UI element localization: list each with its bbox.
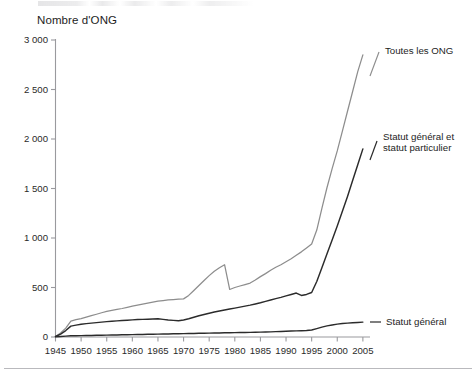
y-tick-label: 500 [2, 282, 48, 293]
legend-label-line: Statut général et [383, 131, 454, 142]
x-tick-label: 1965 [147, 345, 168, 356]
y-tick-label: 3 000 [2, 34, 48, 45]
footer-divider [4, 368, 472, 369]
y-tick-label: 1 500 [2, 183, 48, 194]
x-tick-label: 1975 [199, 345, 220, 356]
legend-label-line: Statut général [386, 316, 446, 327]
x-tick-label: 2000 [327, 345, 348, 356]
legend-label-line: statut particulier [383, 142, 454, 153]
x-tick-label: 1945 [45, 345, 66, 356]
x-tick-label: 1960 [122, 345, 143, 356]
y-axis-title: Nombre d'ONG [37, 14, 117, 26]
legend-label-2: Statut général etstatut particulier [383, 131, 454, 154]
x-tick-label: 1985 [250, 345, 271, 356]
y-tick-label: 0 [2, 331, 48, 342]
series-line [56, 149, 363, 337]
legend-leader-line [370, 52, 379, 76]
x-tick-label: 1970 [173, 345, 194, 356]
x-tick-label: 1950 [70, 345, 91, 356]
legend-label-3: Statut général [386, 316, 446, 327]
y-tick-label: 1 000 [2, 232, 48, 243]
x-tick-label: 2005 [352, 345, 373, 356]
x-tick-label: 1955 [96, 345, 117, 356]
x-tick-label: 1990 [275, 345, 296, 356]
legend-leader-line [370, 141, 377, 160]
y-tick-label: 2 500 [2, 84, 48, 95]
x-tick-label: 1995 [301, 345, 322, 356]
series-line [56, 55, 363, 337]
legend-label-1: Toutes les ONG [385, 45, 453, 56]
series-line [56, 322, 363, 337]
legend-label-line: Toutes les ONG [385, 45, 453, 56]
y-tick-label: 2 000 [2, 133, 48, 144]
chart-figure: Nombre d'ONG 05001 0001 5002 0002 5003 0… [0, 0, 476, 379]
x-tick-label: 1980 [224, 345, 245, 356]
